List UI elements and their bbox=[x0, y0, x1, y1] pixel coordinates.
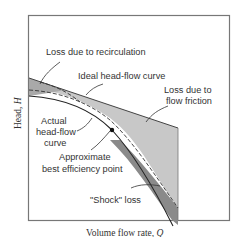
leader-ideal bbox=[86, 84, 103, 95]
x-axis-label: Volume flow rate, Q bbox=[86, 228, 164, 237]
label-actual-curve-3: curve bbox=[44, 138, 66, 148]
label-actual-curve-1: Actual bbox=[41, 116, 67, 126]
label-bep-1: Approximate bbox=[59, 152, 111, 162]
best-efficiency-point-marker bbox=[110, 128, 114, 132]
label-bep-2: best efficiency point bbox=[42, 164, 123, 174]
leader-recirculation bbox=[40, 62, 60, 84]
label-friction-loss-1: Loss due to bbox=[164, 85, 212, 95]
label-friction-loss-2: flow friction bbox=[166, 96, 212, 106]
label-ideal-curve: Ideal head-flow curve bbox=[78, 71, 165, 81]
pump-head-flow-diagram: Loss due to recirculation Ideal head-flo… bbox=[0, 0, 242, 237]
label-shock-loss: "Shock" loss bbox=[90, 195, 141, 205]
label-actual-curve-2: head-flow bbox=[36, 127, 76, 137]
leader-bep bbox=[91, 131, 110, 150]
leader-actual bbox=[77, 118, 92, 131]
label-recirculation-loss: Loss due to recirculation bbox=[46, 47, 146, 57]
y-axis-label: Head, H bbox=[13, 96, 23, 129]
